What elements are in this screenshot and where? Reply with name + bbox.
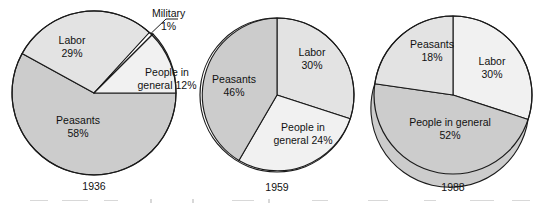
pie-chart-1959: Labor 30% Peasants 46% People in general… xyxy=(200,18,354,193)
pie-chart-figure: Labor 29% Peasants 58% People in general… xyxy=(0,0,549,204)
pie2-label-people-line2: general 24% xyxy=(274,134,333,146)
charts-svg: Labor 29% Peasants 58% People in general… xyxy=(0,0,549,204)
pie1-label-people-line1: People in xyxy=(145,66,189,78)
scan-artifact xyxy=(192,199,194,203)
pie1-label-military-line2: 1% xyxy=(161,20,176,32)
pie2-label-people-line1: People in xyxy=(281,121,325,133)
scan-artifact xyxy=(512,200,530,201)
pie3-label-people-line2: 52% xyxy=(439,129,460,141)
scan-artifact xyxy=(30,200,48,201)
pie2-label-peasants-line2: 46% xyxy=(223,86,244,98)
pie2-year-label: 1959 xyxy=(265,181,289,193)
pie1-label-peasants-line2: 58% xyxy=(67,127,88,139)
pie1-label-military-line1: Military xyxy=(152,7,186,19)
scan-artifact xyxy=(470,200,494,201)
pie1-label-labor-line2: 29% xyxy=(61,47,82,59)
scan-artifact xyxy=(268,199,270,203)
pie3-label-people-line1: People in general xyxy=(409,116,491,128)
pie-chart-1988: Labor 30% Peasants 18% People in general… xyxy=(371,16,532,193)
pie3-year-label: 1988 xyxy=(441,181,465,193)
pie3-label-peasants-line2: 18% xyxy=(421,51,442,63)
pie2-label-peasants-line1: Peasants xyxy=(212,73,256,85)
scan-artifact xyxy=(62,200,88,201)
pie1-label-people-line2: general 12% xyxy=(138,79,197,91)
pie3-label-labor-line1: Labor xyxy=(479,55,506,67)
pie-chart-1936: Labor 29% Peasants 58% People in general… xyxy=(12,7,196,192)
pie1-year-label: 1936 xyxy=(82,180,106,192)
pie2-label-labor-line2: 30% xyxy=(301,59,322,71)
pie1-label-peasants-line1: Peasants xyxy=(56,114,100,126)
scan-artifact xyxy=(424,200,436,201)
pie3-label-labor-line2: 30% xyxy=(481,68,502,80)
scan-artifact xyxy=(150,199,152,203)
scan-artifact xyxy=(232,200,254,201)
pie3-label-peasants-line1: Peasants xyxy=(410,38,454,50)
scan-artifact xyxy=(312,200,328,201)
pie2-label-labor-line1: Labor xyxy=(299,46,326,58)
pie1-label-labor-line1: Labor xyxy=(59,34,86,46)
scan-artifact xyxy=(368,200,388,201)
scan-artifact xyxy=(104,200,118,201)
